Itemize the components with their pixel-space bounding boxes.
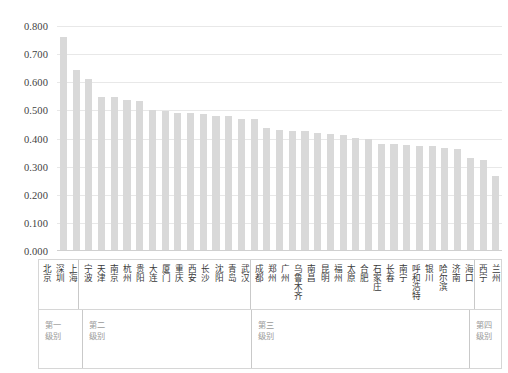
y-axis-tick-label: 0.800	[24, 21, 48, 32]
city-label: 厦门	[158, 260, 171, 309]
city-label: 合肥	[356, 260, 369, 309]
bar-slot	[413, 26, 426, 251]
bar[interactable]	[200, 114, 207, 251]
bar[interactable]	[85, 79, 92, 251]
bar-slot	[70, 26, 83, 251]
x-axis-line	[57, 250, 502, 251]
bar[interactable]	[480, 160, 487, 251]
bar[interactable]	[289, 131, 296, 251]
city-label: 长春	[382, 260, 395, 309]
city-label: 长沙	[197, 260, 210, 309]
bar[interactable]	[238, 119, 245, 251]
bar[interactable]	[251, 119, 258, 251]
bar[interactable]	[136, 101, 143, 251]
tier-label-text: 第二级别	[89, 320, 109, 342]
bar[interactable]	[378, 144, 385, 251]
city-label: 哈尔滨	[434, 260, 447, 309]
bar-slot	[248, 26, 261, 251]
category-label-table: 北京深圳上海宁波天津南京杭州贵阳大连厦门重庆西安长沙沈阳青岛武汉成都郑州广州乌鲁…	[38, 259, 502, 369]
city-label: 福州	[329, 260, 342, 309]
city-label: 乌鲁木齐	[290, 260, 303, 309]
city-label: 北京	[39, 260, 52, 309]
bar[interactable]	[467, 158, 474, 251]
city-label: 济南	[447, 260, 460, 309]
bar-slot	[197, 26, 210, 251]
bar[interactable]	[225, 116, 232, 251]
tier-label-cell: 第二级别	[83, 310, 252, 368]
bar-slot	[184, 26, 197, 251]
y-axis-tick-label: 0.600	[24, 77, 48, 88]
bar-slot	[439, 26, 452, 251]
y-axis-tick-label: 0.500	[24, 105, 48, 116]
bar-slot	[171, 26, 184, 251]
bar-slot	[210, 26, 223, 251]
bar-slot	[375, 26, 388, 251]
y-axis-tick-label: 0.300	[24, 161, 48, 172]
y-axis-tick-label: 0.000	[24, 246, 48, 257]
bar[interactable]	[314, 133, 321, 251]
bar-slot	[337, 26, 350, 251]
bar-slot	[400, 26, 413, 251]
y-axis: 0.8000.7000.6000.5000.4000.3000.2000.100…	[0, 0, 52, 260]
city-name-row: 北京深圳上海宁波天津南京杭州贵阳大连厦门重庆西安长沙沈阳青岛武汉成都郑州广州乌鲁…	[39, 260, 501, 310]
city-label: 沈阳	[210, 260, 223, 309]
bar[interactable]	[416, 146, 423, 251]
bar[interactable]	[403, 145, 410, 251]
bar-slot	[261, 26, 274, 251]
city-label: 呼和浩特	[408, 260, 421, 309]
bar-slot	[362, 26, 375, 251]
city-label: 天津	[92, 260, 105, 309]
bar-slot	[311, 26, 324, 251]
bar[interactable]	[111, 97, 118, 251]
city-label: 大连	[145, 260, 158, 309]
tier-label-row: 第一级别第二级别第三级别第四级别	[39, 310, 501, 368]
bar[interactable]	[390, 144, 397, 251]
plot-area	[57, 26, 502, 251]
bar-slot	[350, 26, 363, 251]
city-group: 西宁兰州	[475, 260, 501, 309]
bar[interactable]	[60, 37, 67, 251]
city-label: 广州	[277, 260, 290, 309]
bar-slot	[95, 26, 108, 251]
bar-slot	[108, 26, 121, 251]
bar[interactable]	[340, 135, 347, 251]
bar-slot	[426, 26, 439, 251]
bar-slot	[299, 26, 312, 251]
bar[interactable]	[73, 70, 80, 251]
bar-series	[57, 26, 502, 251]
bar[interactable]	[123, 100, 130, 251]
bar-slot	[489, 26, 502, 251]
tier-label-cell: 第四级别	[470, 310, 501, 368]
bar[interactable]	[174, 113, 181, 251]
bar-slot	[324, 26, 337, 251]
bar[interactable]	[429, 146, 436, 251]
bar-slot	[235, 26, 248, 251]
bar[interactable]	[352, 138, 359, 251]
bar[interactable]	[454, 149, 461, 251]
bar-slot	[82, 26, 95, 251]
bar[interactable]	[441, 148, 448, 252]
city-label: 杭州	[119, 260, 132, 309]
bar-slot	[121, 26, 134, 251]
bar[interactable]	[365, 139, 372, 251]
bar[interactable]	[162, 111, 169, 251]
bar[interactable]	[187, 113, 194, 251]
y-axis-tick-label: 0.100	[24, 217, 48, 228]
bar[interactable]	[301, 131, 308, 251]
bar[interactable]	[149, 110, 156, 251]
bar[interactable]	[263, 128, 270, 251]
city-label: 郑州	[264, 260, 277, 309]
bar[interactable]	[98, 97, 105, 251]
bar[interactable]	[276, 130, 283, 252]
bar[interactable]	[492, 176, 499, 251]
bar[interactable]	[327, 134, 334, 251]
city-label: 重庆	[171, 260, 184, 309]
city-label: 昆明	[316, 260, 329, 309]
city-label: 青岛	[224, 260, 237, 309]
bar-slot	[451, 26, 464, 251]
bar-slot	[388, 26, 401, 251]
tier-label-text: 第三级别	[258, 320, 278, 342]
y-axis-tick-label: 0.700	[24, 49, 48, 60]
y-axis-tick-label: 0.400	[24, 133, 48, 144]
bar[interactable]	[212, 116, 219, 251]
